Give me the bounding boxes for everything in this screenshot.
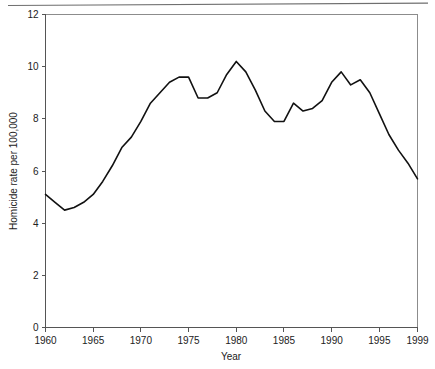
x-tick-label: 1999 — [406, 335, 429, 346]
y-tick-label: 10 — [27, 61, 39, 72]
x-tick-label: 1985 — [273, 335, 296, 346]
x-tick-label: 1980 — [225, 335, 248, 346]
chart-figure: 024681012 196019651970197519801985199019… — [0, 0, 435, 369]
x-tick-label: 1990 — [321, 335, 344, 346]
x-tick-label: 1965 — [82, 335, 105, 346]
x-tick-label: 1970 — [130, 335, 153, 346]
y-tick-label: 12 — [27, 9, 39, 20]
top-scan-rule — [8, 3, 428, 5]
y-tick-label: 4 — [33, 218, 39, 229]
homicide-rate-line-chart: 024681012 196019651970197519801985199019… — [0, 0, 435, 369]
y-tick-label: 0 — [33, 322, 39, 333]
plot-frame — [46, 15, 418, 328]
x-axis-title: Year — [221, 351, 242, 362]
homicide-rate-series-line — [46, 61, 418, 210]
y-axis-title: Homicide rate per 100,000 — [8, 112, 19, 230]
x-tick-label: 1975 — [177, 335, 200, 346]
x-tick-label: 1960 — [34, 335, 57, 346]
axes — [46, 15, 418, 328]
y-tick-label: 6 — [33, 166, 39, 177]
x-axis-ticks: 196019651970197519801985199019951999 — [34, 328, 429, 346]
y-axis-ticks: 024681012 — [27, 9, 45, 333]
y-tick-label: 8 — [33, 113, 39, 124]
y-tick-label: 2 — [33, 270, 39, 281]
x-tick-label: 1995 — [368, 335, 391, 346]
